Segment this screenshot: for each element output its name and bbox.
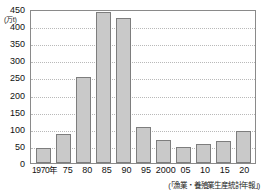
bar-slot: [213, 11, 233, 163]
bar: [96, 12, 111, 163]
bar: [76, 77, 91, 163]
y-axis-tick-labels: 450400350300250200150100500: [0, 10, 28, 164]
bar-slot: [93, 11, 113, 163]
bar-slot: [33, 11, 53, 163]
y-axis-tick-label: 450: [10, 6, 25, 15]
bar-slot: [113, 11, 133, 163]
x-axis-tick-label: 95: [136, 166, 156, 176]
bar: [216, 141, 231, 163]
x-axis-tick-label: 90: [117, 166, 137, 176]
x-axis-tick-label: 80: [77, 166, 97, 176]
bar: [36, 148, 51, 163]
bar: [156, 140, 171, 163]
x-axis-tick-label: 20: [234, 166, 254, 176]
bar: [196, 144, 211, 163]
bar-slot: [193, 11, 213, 163]
y-axis-tick-label: 50: [15, 142, 25, 151]
fishery-production-bar-chart: (万t) 450400350300250200150100500 1970年75…: [0, 0, 264, 192]
bar-slot: [53, 11, 73, 163]
bar: [116, 18, 131, 163]
plot-area: [30, 10, 256, 164]
y-axis-tick-label: 400: [10, 23, 25, 32]
x-axis-tick-label: 05: [176, 166, 196, 176]
y-axis-tick-label: 350: [10, 40, 25, 49]
x-axis-tick-labels: 1970年7580859095200005101520: [30, 166, 256, 176]
y-axis-tick-label: 250: [10, 74, 25, 83]
bar-slot: [173, 11, 193, 163]
x-axis-tick-label: 85: [97, 166, 117, 176]
bar-slot: [153, 11, 173, 163]
bar: [136, 127, 151, 163]
y-axis-tick-label: 300: [10, 57, 25, 66]
bar-slot: [133, 11, 153, 163]
bar: [176, 147, 191, 163]
y-axis-tick-label: 100: [10, 125, 25, 134]
x-axis-tick-label: 15: [215, 166, 235, 176]
x-axis-tick-label: 2000: [156, 166, 176, 176]
y-axis-tick-label: 0: [20, 160, 25, 169]
source-note: (「漁業・養殖業生産統計年報」): [168, 179, 260, 190]
x-axis-tick-label: 75: [58, 166, 78, 176]
bar-slot: [233, 11, 253, 163]
bar-series: [31, 11, 255, 163]
x-axis-tick-label: 10: [195, 166, 215, 176]
y-axis-tick-label: 150: [10, 108, 25, 117]
x-axis-tick-label: 1970年: [32, 166, 58, 176]
bar-slot: [73, 11, 93, 163]
bar: [236, 131, 251, 163]
bar: [56, 134, 71, 163]
y-axis-tick-label: 200: [10, 91, 25, 100]
